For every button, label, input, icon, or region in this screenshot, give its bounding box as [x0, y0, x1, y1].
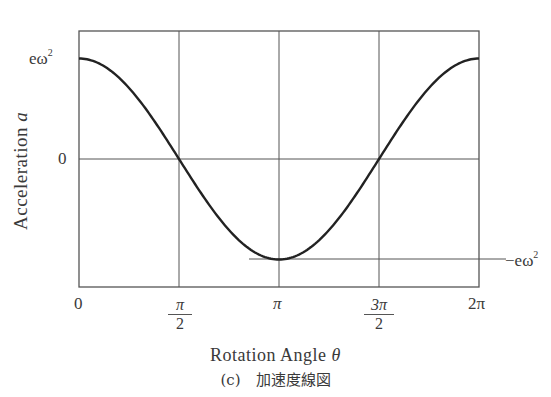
y-tick-min: −eω2 — [505, 249, 538, 271]
y-axis-label-text: Acceleration — [10, 122, 31, 230]
y-tick-max-text: eω — [29, 49, 48, 68]
y-tick-max: eω2 — [29, 47, 53, 69]
x-tick-pi: π — [273, 294, 282, 314]
y-axis-label: Acceleration a — [10, 112, 32, 230]
y-tick-zero: 0 — [58, 149, 67, 169]
x-tick-0: 0 — [74, 294, 83, 314]
y-tick-max-sup: 2 — [48, 47, 53, 58]
x-tick-3pi-over-2-num: 3π — [364, 296, 394, 315]
x-tick-pi-over-2: π 2 — [168, 296, 192, 333]
x-axis-label-var: θ — [332, 345, 341, 365]
x-tick-pi-over-2-den: 2 — [168, 315, 192, 333]
x-tick-3pi-over-2: 3π 2 — [364, 296, 394, 333]
chart-plot-area — [0, 0, 551, 397]
x-tick-3pi-over-2-den: 2 — [364, 315, 394, 333]
y-tick-min-sup: 2 — [533, 249, 538, 260]
y-tick-min-text: −eω — [505, 251, 533, 270]
x-axis-label-text: Rotation Angle — [210, 345, 332, 365]
x-tick-2pi: 2π — [468, 294, 485, 314]
x-tick-pi-over-2-num: π — [168, 296, 192, 315]
x-axis-label: Rotation Angle θ — [0, 345, 551, 366]
figure-caption: (c) 加速度線図 — [0, 368, 551, 389]
y-axis-label-var: a — [10, 112, 31, 122]
